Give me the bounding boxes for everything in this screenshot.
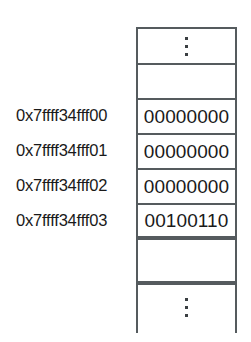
- address-text: 0x7ffff34fff00: [16, 106, 107, 125]
- address-label: 0x7ffff34fff02: [16, 168, 136, 203]
- byte-value: 00100110: [145, 211, 229, 230]
- address-text: 0x7ffff34fff01: [16, 141, 107, 160]
- address-label: 0x7ffff34fff00: [16, 98, 136, 133]
- byte-value: 00000000: [144, 177, 229, 196]
- address-label: 0x7ffff34fff03: [16, 203, 136, 238]
- memory-cell-empty-bottom: [136, 238, 237, 283]
- memory-cell-byte: 00000000: [136, 98, 237, 133]
- vertical-ellipsis-icon: [185, 298, 188, 317]
- memory-cell-ellipsis-bottom: [136, 283, 237, 330]
- address-text: 0x7ffff34fff03: [16, 211, 107, 230]
- memory-cell-byte: 00000000: [136, 133, 237, 168]
- address-text: 0x7ffff34fff02: [16, 176, 107, 195]
- memory-cell-empty-top: [136, 63, 237, 98]
- memory-cell-ellipsis-top: [136, 27, 237, 63]
- memory-cell-column: 00000000 00000000 00000000 00100110: [136, 27, 237, 330]
- address-label: 0x7ffff34fff01: [16, 133, 136, 168]
- address-label-list: 0x7ffff34fff00 0x7ffff34fff01 0x7ffff34f…: [16, 27, 136, 238]
- vertical-ellipsis-icon: [185, 37, 188, 56]
- byte-value: 00000000: [144, 107, 229, 126]
- byte-value: 00000000: [144, 142, 229, 161]
- memory-cell-byte: 00000000: [136, 168, 237, 203]
- memory-cell-byte: 00100110: [136, 203, 237, 238]
